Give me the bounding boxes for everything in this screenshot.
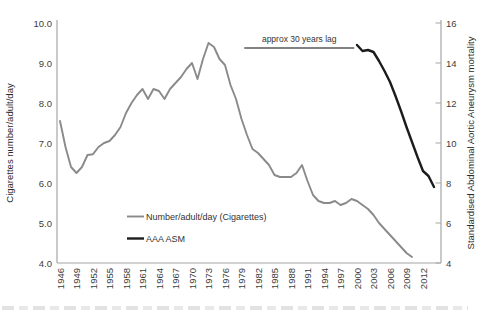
x-tick-label: 2009	[401, 268, 412, 289]
x-tick-label: 1961	[137, 268, 148, 289]
x-tick-label: 1964	[154, 268, 165, 289]
right-tick-label: 10	[446, 138, 457, 149]
right-tick-label: 12	[446, 98, 457, 109]
x-tick-label: 1973	[203, 268, 214, 289]
x-tick-label: 1997	[335, 268, 346, 289]
right-tick-label: 14	[446, 58, 457, 69]
x-tick-label: 2006	[385, 268, 396, 289]
right-tick-label: 16	[446, 18, 457, 29]
right-tick-label: 4	[446, 258, 451, 269]
legend-label-cigarettes: Number/adult/day (Cigarettes)	[146, 212, 267, 222]
left-tick-label: 9.0	[39, 58, 52, 69]
legend-label-aaa-asm: AAA ASM	[146, 234, 185, 244]
x-tick-label: 1967	[170, 268, 181, 289]
cropped-caption-remnant	[2, 306, 468, 310]
x-tick-label: 1985	[269, 268, 280, 289]
left-axis-title: Cigarettes number/adult/day	[4, 83, 15, 203]
left-tick-label: 5.0	[39, 218, 52, 229]
lag-annotation-label: approx 30 years lag	[262, 34, 337, 44]
left-tick-label: 4.0	[39, 258, 52, 269]
right-tick-label: 8	[446, 178, 451, 189]
left-tick-label: 8.0	[39, 98, 52, 109]
x-tick-label: 1949	[71, 268, 82, 289]
left-tick-label: 6.0	[39, 178, 52, 189]
series-lines	[60, 43, 434, 257]
x-tick-label: 1982	[253, 268, 264, 289]
x-tick-label: 1958	[121, 268, 132, 289]
figure: 10.09.08.07.06.05.04.0 16141210864 19461…	[0, 0, 491, 312]
left-axis-tick-labels: 10.09.08.07.06.05.04.0	[34, 18, 53, 269]
aaa-asm-series-line	[357, 45, 434, 187]
right-tick-label: 6	[446, 218, 451, 229]
x-tick-label: 2000	[352, 268, 363, 289]
right-axis-tick-labels: 16141210864	[436, 18, 457, 269]
x-tick-label: 1952	[88, 268, 99, 289]
x-tick-label: 1994	[319, 268, 330, 289]
legend: Number/adult/day (Cigarettes) AAA ASM	[127, 212, 267, 244]
chart-canvas: 10.09.08.07.06.05.04.0 16141210864 19461…	[0, 0, 491, 312]
x-axis-tick-labels: 1946194919521955195819611964196719701973…	[55, 268, 429, 289]
left-tick-label: 10.0	[34, 18, 53, 29]
lag-annotation: approx 30 years lag	[244, 34, 354, 48]
x-tick-label: 1955	[104, 268, 115, 289]
x-tick-label: 1970	[187, 268, 198, 289]
x-tick-label: 1991	[302, 268, 313, 289]
x-tick-label: 1979	[236, 268, 247, 289]
x-tick-label: 1946	[55, 268, 66, 289]
x-tick-label: 2003	[368, 268, 379, 289]
x-tick-label: 2012	[418, 268, 429, 289]
cigarettes-series-line	[60, 43, 412, 257]
right-axis-title: Standardised Abdominal Aortic Aneurysm m…	[465, 36, 476, 249]
x-tick-label: 1976	[220, 268, 231, 289]
left-tick-label: 7.0	[39, 138, 52, 149]
x-tick-label: 1988	[286, 268, 297, 289]
